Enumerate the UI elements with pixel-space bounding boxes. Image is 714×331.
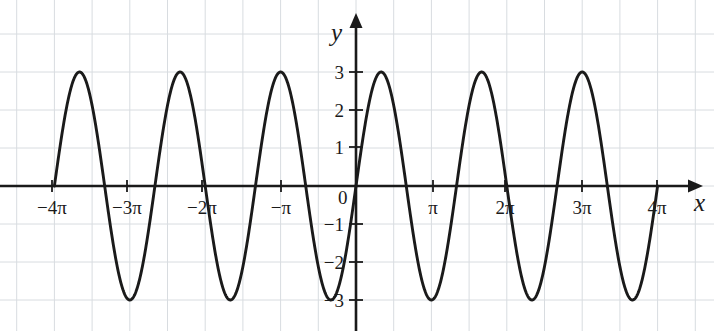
x-tick-label: 2π bbox=[495, 198, 514, 217]
origin-label: 0 bbox=[338, 188, 348, 207]
y-axis-arrowhead bbox=[350, 13, 363, 28]
y-tick-label: 3 bbox=[335, 63, 345, 82]
x-tick-label: −2π bbox=[187, 198, 217, 217]
graph-figure: −4π−3π−2π−ππ2π3π4π 321−1−2−3 0 y x bbox=[0, 0, 714, 331]
x-tick-label: 3π bbox=[572, 198, 591, 217]
y-tick-label: 2 bbox=[335, 101, 345, 120]
x-tick-label: −4π bbox=[37, 198, 67, 217]
x-tick-label: 4π bbox=[647, 198, 666, 217]
x-tick-label: π bbox=[428, 198, 438, 217]
x-tick-label: −π bbox=[271, 198, 291, 217]
y-axis-name-label: y bbox=[331, 20, 342, 45]
x-tick-label: −3π bbox=[112, 198, 142, 217]
y-tick-label: −2 bbox=[324, 253, 344, 272]
x-axis-name-label: x bbox=[694, 190, 705, 215]
y-tick-label: −3 bbox=[324, 291, 344, 310]
y-tick-label: −1 bbox=[324, 215, 344, 234]
function-plot bbox=[0, 0, 714, 331]
y-tick-label: 1 bbox=[335, 138, 345, 157]
